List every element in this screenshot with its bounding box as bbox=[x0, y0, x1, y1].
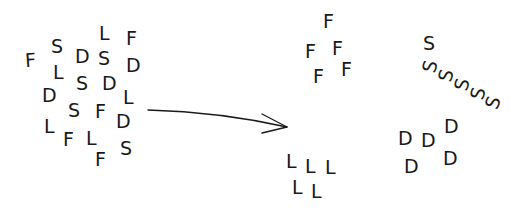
letter-l: L bbox=[311, 182, 322, 201]
letter-l: L bbox=[325, 158, 336, 177]
letter-d: D bbox=[444, 117, 459, 136]
letter-f: F bbox=[305, 42, 316, 61]
letter-d: D bbox=[443, 149, 458, 168]
arrow-icon bbox=[0, 0, 525, 210]
letter-l: L bbox=[305, 157, 316, 176]
letter-s: S bbox=[423, 34, 435, 53]
letter-f: F bbox=[341, 60, 352, 79]
letter-f: F bbox=[313, 67, 324, 86]
letter-f: F bbox=[332, 39, 343, 58]
letter-l: L bbox=[286, 152, 297, 171]
letter-d: D bbox=[404, 157, 419, 176]
letter-f: F bbox=[323, 12, 334, 31]
letter-d: D bbox=[398, 129, 413, 148]
letter-d: D bbox=[421, 131, 436, 150]
letter-l: L bbox=[292, 178, 303, 197]
diagram-canvas: FSDLSFDLSDDLSFDLFLSF FFFFFLLLLLSSSSSSDDD… bbox=[0, 0, 525, 210]
